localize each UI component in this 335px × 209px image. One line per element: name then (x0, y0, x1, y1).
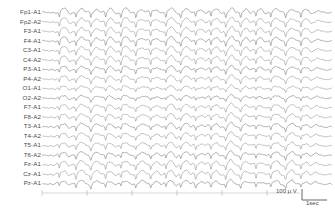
eeg-viewer: Fp1-A1Fp2-A2F3-A1F4-A1C3-A1C4-A2P3-A1P4-… (0, 0, 335, 209)
calibration-legend (0, 0, 335, 209)
